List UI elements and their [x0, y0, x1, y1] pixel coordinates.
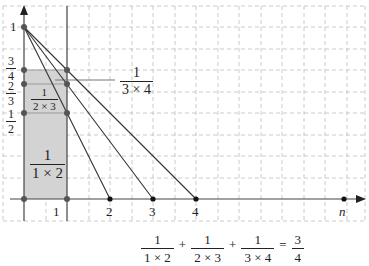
x-axis-arrow-icon [356, 195, 366, 203]
area-label-2x3: 1 2 × 3 [31, 87, 58, 112]
y-label-three-quarters: 3 4 [6, 55, 16, 82]
area-label-3x4: 1 3 × 4 [120, 66, 153, 97]
x-tick-4: 4 [192, 205, 199, 218]
y-label-two-thirds: 2 3 [6, 80, 16, 107]
equation-term: 1 1 × 2 [141, 232, 174, 266]
y-axis-arrow-icon [20, 5, 28, 15]
equation-term: 1 3 × 4 [241, 232, 274, 266]
area-label-1x2: 1 1 × 2 [30, 148, 65, 181]
sum-equation: 1 1 × 2 + 1 2 × 3 + 1 3 × 4 = 3 4 [138, 232, 307, 266]
x-tick-3: 3 [149, 205, 156, 218]
y-label-one: 1 [10, 20, 17, 33]
equation-term: 1 2 × 3 [191, 232, 224, 266]
equation-result: 3 4 [292, 232, 305, 266]
y-label-one-half: 1 2 [6, 108, 16, 135]
x-tick-2: 2 [106, 205, 113, 218]
x-label-n: n [339, 205, 346, 218]
x-tick-1: 1 [53, 205, 60, 218]
